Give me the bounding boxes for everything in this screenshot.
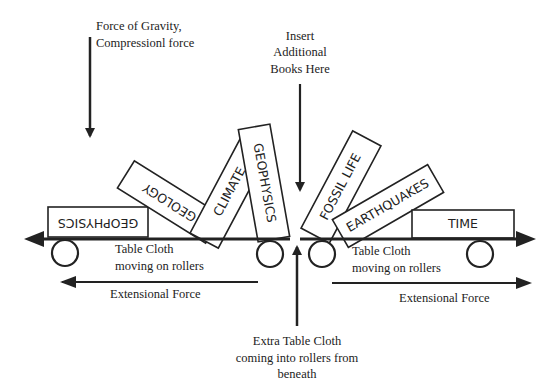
roller-icon [467,241,493,267]
book-geophysics-flat: GEOPHYSICS [48,207,148,237]
roller-icon [52,240,78,266]
insert-label-line3: Books Here [270,62,330,76]
book-time: TIME [412,210,514,238]
cloth-left-label-line1: Table Cloth [115,242,174,256]
ext-right-label: Extensional Force [399,291,490,305]
gravity-arrow-group: Force of Gravity, Compressionl force [90,19,195,136]
extra-cloth-arrow-group: Extra Table Cloth coming into rollers fr… [236,247,359,381]
insert-label-line1: Insert [286,29,315,43]
insert-arrow-group: Insert Additional Books Here [270,29,330,190]
insert-label-line2: Additional [273,45,327,59]
roller-icon [257,241,283,267]
gravity-label-line2: Compressionl force [96,36,195,50]
ext-right-arrowhead-icon [516,277,532,289]
extensional-force-left: Extensional Force [60,276,258,301]
extra-cloth-label-line2: coming into rollers from [236,351,359,365]
gravity-label-line1: Force of Gravity, [96,19,182,33]
arrow-left-icon [24,231,44,247]
cloth-right-label-line2: moving on rollers [352,261,441,275]
ext-left-label: Extensional Force [110,287,201,301]
extra-cloth-label-line1: Extra Table Cloth [253,334,342,348]
book-label: TIME [447,216,478,231]
arrow-right-icon [516,231,536,247]
cloth-right-label-line1: Table Cloth [352,244,411,258]
roller-icon [309,241,335,267]
cloth-left-label-line2: moving on rollers [115,259,204,273]
ext-left-arrowhead-icon [60,276,76,288]
extensional-force-right: Extensional Force [332,277,532,305]
table-cloth-diagram: Force of Gravity, Compressionl force Ins… [0,0,557,392]
book-label: GEOPHYSICS [58,216,138,231]
extra-cloth-label-line3: beneath [278,367,318,381]
